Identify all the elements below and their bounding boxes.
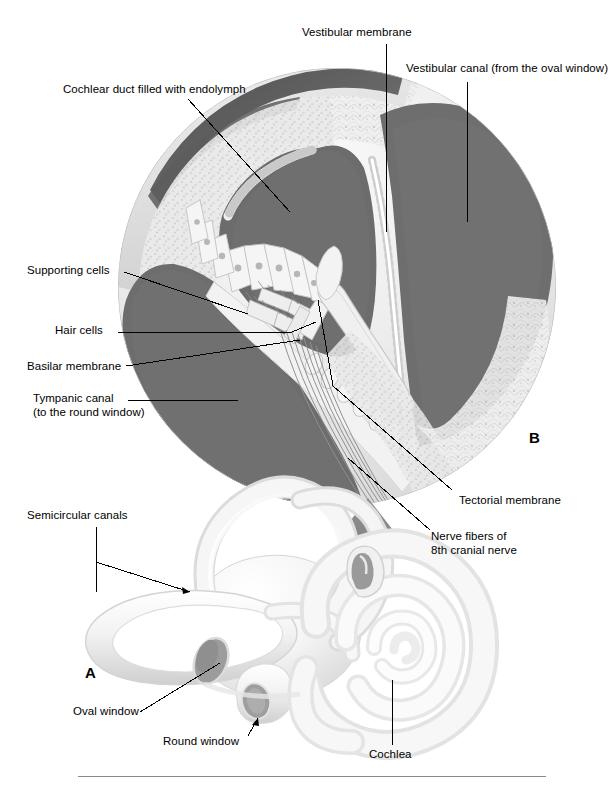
panel-a-letter: A xyxy=(85,664,96,681)
label-cochlear-duct: Cochlear duct filled with endolymph xyxy=(63,83,246,97)
bottom-rule xyxy=(78,776,546,777)
label-tectorial-membrane: Tectorial membrane xyxy=(459,494,561,508)
panel-b-cross-section xyxy=(118,66,556,516)
label-cochlea: Cochlea xyxy=(369,748,412,762)
label-round-window: Round window xyxy=(163,735,239,749)
leader-semicircular-2 xyxy=(96,562,190,592)
figure-root: Vestibular membrane Vestibular canal (fr… xyxy=(0,0,616,788)
label-vestibular-canal: Vestibular canal (from the oval window) xyxy=(406,62,608,76)
label-oval-window: Oval window xyxy=(73,705,139,719)
panel-b-letter: B xyxy=(529,429,540,446)
label-basilar-membrane: Basilar membrane xyxy=(27,360,121,374)
label-nerve-fibers-line2: 8th cranial nerve xyxy=(431,544,517,558)
label-vestibular-membrane: Vestibular membrane xyxy=(302,26,412,40)
label-hair-cells: Hair cells xyxy=(55,324,103,338)
label-tympanic-canal-line2: (to the round window) xyxy=(33,406,145,420)
label-tympanic-canal-line1: Tympanic canal xyxy=(33,392,114,406)
label-supporting-cells: Supporting cells xyxy=(27,264,110,278)
label-semicircular-canals: Semicircular canals xyxy=(27,509,128,523)
label-nerve-fibers-line1: Nerve fibers of xyxy=(431,530,507,544)
